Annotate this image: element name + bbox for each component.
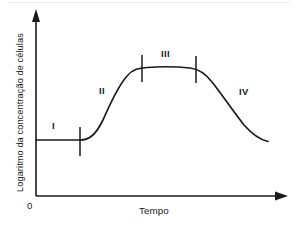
- phase-label-ii: II: [99, 85, 105, 96]
- growth-curve-path: [36, 67, 268, 142]
- phase-label-iii: III: [161, 48, 170, 59]
- origin-tick-label: 0: [27, 200, 32, 211]
- phase-label-i: I: [52, 120, 55, 131]
- growth-curve-figure: Logaritmo da concentração de células Tem…: [0, 0, 296, 225]
- x-axis-label: Tempo: [139, 205, 169, 216]
- arrow-up-icon: [32, 9, 40, 22]
- phase-label-iv: IV: [239, 86, 249, 97]
- plot-canvas: [0, 0, 296, 225]
- arrow-right-icon: [275, 192, 288, 201]
- y-axis-label: Logaritmo da concentração de células: [15, 0, 25, 192]
